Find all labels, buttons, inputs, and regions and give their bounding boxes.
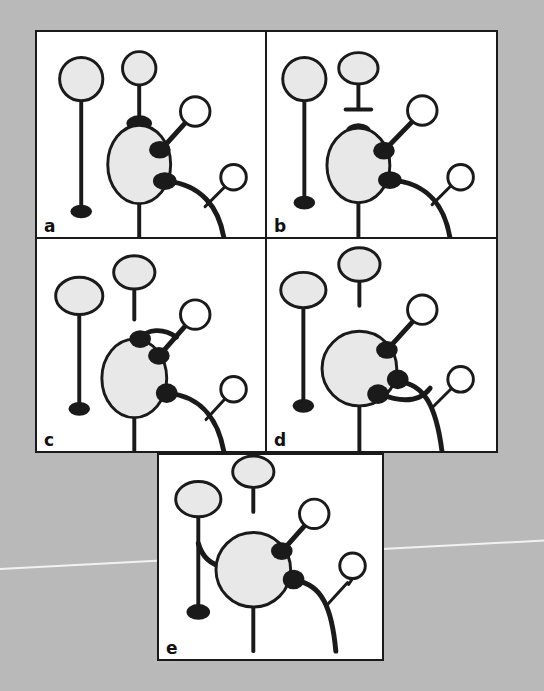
panel-label-d: d [274,432,286,449]
panel-label-c: c [44,432,54,449]
panel-e: e [157,453,384,661]
panel-label-a: a [44,218,55,235]
panel-d: d [265,237,498,453]
panel-b: b [265,30,498,239]
panel-label-b: b [274,218,286,235]
panel-label-e: e [166,640,178,657]
panel-a: a [35,30,267,239]
panel-c: c [35,237,267,453]
